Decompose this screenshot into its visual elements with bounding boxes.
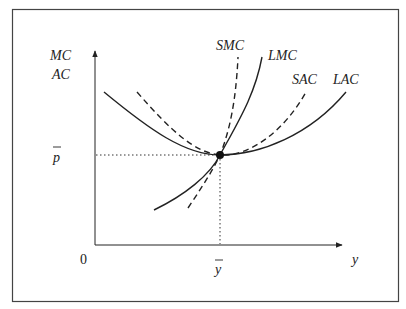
- cost-curves-diagram: MC AC y 0 p y SMC LMC SAC LAC: [0, 0, 406, 309]
- smc-label: SMC: [216, 38, 245, 53]
- lac-label: LAC: [332, 72, 359, 87]
- y-axis-label-mc: MC: [49, 48, 72, 63]
- lmc-label: LMC: [267, 48, 297, 63]
- sac-label: SAC: [292, 72, 318, 87]
- x-axis-label: y: [350, 252, 359, 267]
- sac-curve: [137, 92, 306, 155]
- y-bar-label: y: [213, 262, 222, 277]
- y-axis-label-ac: AC: [51, 67, 71, 82]
- tangency-point: [216, 151, 224, 159]
- smc-curve: [188, 57, 238, 208]
- origin-label: 0: [80, 252, 87, 267]
- p-bar-label: p: [52, 150, 60, 165]
- lmc-curve: [154, 57, 262, 210]
